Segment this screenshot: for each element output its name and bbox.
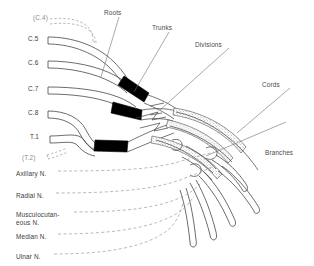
branch-label-axillary: Axillary N. — [16, 170, 46, 178]
leader-trunks — [134, 32, 169, 92]
terminal-branches-group — [180, 155, 260, 247]
branch-radial — [218, 166, 260, 213]
leader-musculocutaneous — [74, 184, 200, 212]
root-label-c6: C.6 — [28, 59, 38, 67]
root-c8 — [48, 111, 99, 151]
root-label-t2: (T.2) — [22, 154, 36, 162]
root-t2 — [47, 148, 68, 159]
root-label-c5: C.5 — [28, 35, 38, 43]
branch-median — [190, 180, 217, 240]
root-t1 — [50, 135, 99, 156]
root-c5 — [48, 37, 129, 87]
leader-radial — [56, 166, 214, 193]
brachial-plexus-figure: Roots Trunks Divisions Cords Branches (C… — [0, 0, 314, 266]
root-c6 — [48, 61, 131, 93]
section-label-branches: Branches — [265, 149, 293, 157]
trunks-group — [94, 76, 149, 152]
leader-divisions — [160, 48, 229, 110]
root-label-c8: C.8 — [28, 109, 38, 117]
section-label-roots: Roots — [104, 9, 121, 17]
root-label-c7: C.7 — [28, 85, 38, 93]
branch-label-musculocutaneous: Musculocutan- eous N. — [16, 211, 60, 226]
branch-label-radial: Radial N. — [16, 192, 44, 200]
root-label-c4: (C.4) — [33, 14, 48, 22]
section-label-trunks: Trunks — [152, 24, 172, 32]
branch-label-ulnar: Ulnar N. — [16, 253, 41, 261]
root-c4 — [50, 18, 96, 43]
root-label-t1: T.1 — [30, 133, 39, 141]
lower-trunk — [94, 140, 128, 152]
leader-cords — [237, 88, 290, 133]
branch-musculocutaneous — [199, 172, 236, 226]
cords-group — [151, 108, 246, 179]
section-label-cords: Cords — [262, 81, 280, 89]
leader-median — [58, 196, 194, 234]
root-nerves-group — [47, 18, 136, 159]
branch-label-median: Median N. — [16, 233, 46, 241]
section-label-divisions: Divisions — [195, 41, 222, 49]
